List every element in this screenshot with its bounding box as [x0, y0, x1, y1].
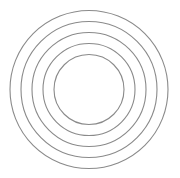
rings-group [10, 11, 168, 169]
ring-circle-2 [21, 22, 157, 158]
ring-circle-3 [32, 33, 146, 147]
ring-circle-5 [54, 55, 124, 125]
ring-circle-4 [43, 44, 135, 136]
ring-circle-1 [10, 11, 168, 169]
concentric-circles-diagram [0, 0, 180, 178]
